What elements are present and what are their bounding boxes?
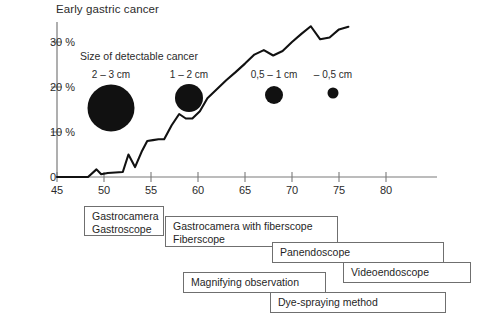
legend-title: Size of detectable cancer xyxy=(80,51,198,62)
y-tick-label-10: 10 % xyxy=(50,127,75,138)
y-tick-label-0: 0 xyxy=(50,172,56,183)
x-tick-label-60: 60 xyxy=(192,185,204,196)
timeline-box-dye-spraying-method[interactable]: Dye-spraying method xyxy=(270,292,446,313)
timeline-box-gastrocamera-gastroscope[interactable]: Gastrocamera Gastroscope xyxy=(84,206,164,236)
bubble-1-2cm xyxy=(175,84,203,112)
y-tick-label-30: 30 % xyxy=(50,37,75,48)
x-tick-label-45: 45 xyxy=(51,185,63,196)
bubble-label-05-1cm: 0,5 – 1 cm xyxy=(251,70,298,80)
chart-figure: Early gastric cancer 30 % 20 % xyxy=(0,0,480,325)
bubble-label-2-3cm: 2 – 3 cm xyxy=(92,70,130,80)
bubble-2-3cm xyxy=(88,85,135,132)
timeline-box-magnifying-observation[interactable]: Magnifying observation xyxy=(183,272,326,293)
x-tick-label-55: 55 xyxy=(145,185,157,196)
x-tick-label-80: 80 xyxy=(380,185,392,196)
bubble-under-05cm xyxy=(328,88,339,99)
timeline-box-videoendoscope[interactable]: Videoendoscope xyxy=(343,262,471,283)
bubble-label-under-05cm: – 0,5 cm xyxy=(314,70,352,80)
x-tick-label-75: 75 xyxy=(333,185,345,196)
x-tick-label-50: 50 xyxy=(98,185,110,196)
bubble-label-1-2cm: 1 – 2 cm xyxy=(170,70,208,80)
timeline-box-panendoscope[interactable]: Panendoscope xyxy=(272,242,444,263)
x-tick-label-65: 65 xyxy=(239,185,251,196)
bubble-05-1cm xyxy=(265,86,283,104)
y-tick-label-20: 20 % xyxy=(50,82,75,93)
x-tick-label-70: 70 xyxy=(286,185,298,196)
